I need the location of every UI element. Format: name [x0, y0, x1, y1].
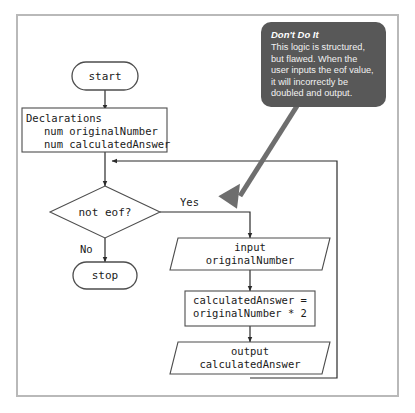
callout-arrow — [218, 106, 297, 214]
node-output-line1: output — [231, 345, 269, 357]
node-stop-label: stop — [92, 269, 119, 282]
node-calculate-line1: calculatedAnswer = — [193, 294, 307, 306]
node-declarations-line1: Declarations — [26, 112, 102, 124]
callout-body: This logic is structured, but flawed. Wh… — [271, 42, 377, 100]
edge-decision-to-input — [160, 212, 250, 238]
node-calculate-line2: originalNumber * 2 — [193, 307, 307, 319]
node-input-line1: input — [234, 241, 266, 253]
node-decision-label: not eof? — [79, 206, 132, 219]
branch-label-yes: Yes — [180, 196, 199, 208]
node-declarations-line2: num originalNumber — [44, 125, 158, 137]
callout-title: Don't Do It — [271, 29, 377, 41]
node-input-line2: originalNumber — [206, 254, 295, 266]
node-start-label: start — [88, 70, 121, 83]
branch-label-no: No — [80, 243, 93, 255]
node-declarations-line3: num calculatedAnswer — [44, 138, 170, 150]
callout-box: Don't Do It This logic is structured, bu… — [261, 22, 386, 107]
node-output-line2: calculatedAnswer — [199, 358, 300, 370]
flowchart-figure: start Declarations num originalNumber nu… — [0, 0, 415, 413]
